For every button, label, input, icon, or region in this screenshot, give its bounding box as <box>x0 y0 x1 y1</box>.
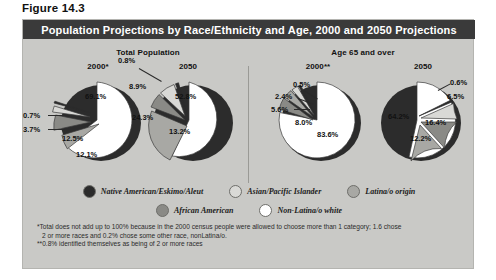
legend-swatch-african-american-icon <box>156 204 169 217</box>
legend-swatch-non-latina-white-icon <box>259 204 272 217</box>
chart-title-age65-2000: 2000** <box>263 62 373 71</box>
legend-item-native-american: Native American/Eskimo/Aleut <box>83 185 204 198</box>
section-heading-total-population: Total Population <box>63 48 233 57</box>
leader-line-age65-2000-latina <box>294 109 310 110</box>
slice-label-age65-2000-white: 83.6% <box>317 130 338 139</box>
slice-label-total-2050-asian: 8.9% <box>129 82 146 91</box>
legend-item-asian-pacific-islander: Asian/Pacific Islander <box>229 185 321 198</box>
legend-swatch-asian-pacific-islander-icon <box>229 185 242 198</box>
legend-item-african-american: African American <box>156 204 233 217</box>
slice-label-total-2000-asian: 3.7% <box>23 125 40 134</box>
slice-label-total-2000-native: 0.7% <box>23 111 40 120</box>
legend: Native American/Eskimo/Aleut Asian/Pacif… <box>23 182 475 217</box>
leader-line-total-2000-asian <box>48 129 65 130</box>
slice-label-total-2050-latina: 24.3% <box>132 113 153 122</box>
legend-label-asian-pacific-islander: Asian/Pacific Islander <box>247 187 321 196</box>
legend-row-2: African American Non-Latina/o white <box>23 204 475 217</box>
slice-label-age65-2000-latina: 5.6% <box>271 105 288 114</box>
section-heading-age-65: Age 65 and over <box>278 48 448 57</box>
slice-label-age65-2050-latina: 12.2% <box>410 134 431 143</box>
slice-label-age65-2050-native: 0.6% <box>450 78 467 87</box>
figure-label: Figure 14.3 <box>22 2 85 14</box>
figure-panel: Population Projections by Race/Ethnicity… <box>22 19 474 269</box>
slice-label-total-2000-latina: 12.1% <box>76 150 97 159</box>
legend-swatch-latina-origin-icon <box>347 185 360 198</box>
legend-label-african-american: African American <box>174 206 233 215</box>
slice-label-age65-2050-white: 64.2% <box>388 112 409 121</box>
slice-label-total-2050-native: 0.8% <box>118 56 135 65</box>
slice-label-age65-2000-asian: 2.4% <box>275 92 292 101</box>
chart-title-age65-2050: 2050 <box>368 62 478 71</box>
slice-label-total-2050-african: 13.2% <box>169 127 190 136</box>
slice-label-age65-2000-native: 0.5% <box>293 80 310 89</box>
legend-item-non-latina-white: Non-Latina/o white <box>259 204 342 217</box>
footnote-1: *Total does not add up to 100% because i… <box>37 223 467 232</box>
footnotes: *Total does not add up to 100% because i… <box>37 223 467 249</box>
legend-label-native-american: Native American/Eskimo/Aleut <box>101 187 204 196</box>
chart-title-total-2050: 2050 <box>133 62 243 71</box>
legend-row-1: Native American/Eskimo/Aleut Asian/Pacif… <box>23 185 475 198</box>
legend-item-latina-origin: Latina/o origin <box>347 185 415 198</box>
slice-label-age65-2050-african: 16.4% <box>425 118 446 127</box>
slice-label-total-2000-african: 12.5% <box>62 134 83 143</box>
slice-label-age65-2000-african: 8.0% <box>295 118 312 127</box>
slice-label-total-2000-white: 69.1% <box>85 92 106 101</box>
page-title: Population Projections by Race/Ethnicity… <box>41 24 457 36</box>
legend-swatch-native-american-icon <box>83 185 96 198</box>
panel-divider <box>248 66 249 183</box>
figure-title-bar: Population Projections by Race/Ethnicity… <box>23 20 475 39</box>
slice-label-age65-2050-asian: 6.5% <box>447 92 464 101</box>
legend-label-non-latina-white: Non-Latina/o white <box>277 206 342 215</box>
legend-label-latina-origin: Latina/o origin <box>365 187 415 196</box>
footnote-1-cont: 2 or more races and 0.2% chose some othe… <box>37 232 467 241</box>
slice-label-total-2050-white: 52.8% <box>175 92 196 101</box>
leader-line-total-2000-native <box>48 115 63 116</box>
pie-chart-age65-2000 <box>261 72 373 168</box>
footnote-2: **0.8% identified themselves as being of… <box>37 240 467 249</box>
